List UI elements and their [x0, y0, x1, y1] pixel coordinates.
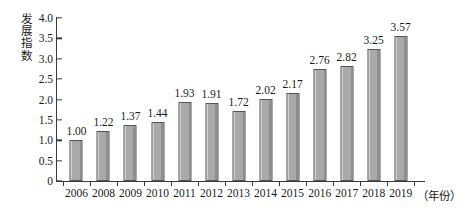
y-axis-tick-label: 2.5 [39, 73, 53, 85]
bar-item[interactable]: 3.252018 [367, 18, 380, 181]
x-axis-tick-label: 2012 [200, 187, 223, 199]
bar-rect[interactable] [151, 122, 164, 181]
y-axis-tick-mark [57, 180, 62, 181]
bar-item[interactable]: 1.722013 [232, 18, 245, 181]
bar-item[interactable]: 1.372009 [124, 18, 137, 181]
x-axis-tick-label: 2011 [173, 187, 196, 199]
bar-value-label: 1.00 [66, 125, 86, 137]
x-axis-tick-mark [414, 181, 415, 186]
bar-value-label: 2.02 [256, 84, 276, 96]
y-axis-tick-mark [57, 58, 62, 59]
y-axis-tick-label: 3.5 [39, 32, 53, 44]
x-axis-tick-mark [333, 181, 334, 186]
bar-item[interactable]: 1.912012 [205, 18, 218, 181]
bar-value-label: 2.82 [337, 51, 357, 63]
x-axis-tick-label: 2018 [362, 187, 385, 199]
bar-rect[interactable] [367, 49, 380, 181]
bar-item[interactable]: 3.572019 [394, 18, 407, 181]
bar-item[interactable]: 1.222008 [97, 18, 110, 181]
x-axis-tick-mark [306, 181, 307, 186]
bar-rect[interactable] [340, 66, 353, 181]
y-axis-tick-mark [57, 17, 62, 18]
bar-item[interactable]: 2.172015 [286, 18, 299, 181]
y-axis-tick-mark [57, 78, 62, 79]
bar-rect[interactable] [205, 103, 218, 181]
bar-value-label: 1.91 [201, 88, 221, 100]
bar-value-label: 2.17 [283, 78, 303, 90]
y-axis-tick-mark [57, 160, 62, 161]
x-axis-tick-mark [198, 181, 199, 186]
x-axis-tick-mark [279, 181, 280, 186]
y-axis-tick-mark [57, 99, 62, 100]
x-axis-tick-mark [90, 181, 91, 186]
y-axis-tick-label: 1.0 [39, 134, 53, 146]
x-axis-tick-label: 2016 [308, 187, 331, 199]
x-axis-unit-label: （年份） [417, 187, 461, 203]
bar-rect[interactable] [394, 36, 407, 181]
x-axis-tick-label: 2006 [65, 187, 88, 199]
x-axis-tick-label: 2013 [227, 187, 250, 199]
y-axis-tick-label: 3.0 [39, 53, 53, 65]
x-axis-tick-mark [360, 181, 361, 186]
x-axis-tick-mark [63, 181, 64, 186]
bar-item[interactable]: 2.762016 [313, 18, 326, 181]
bar-value-label: 3.57 [391, 21, 411, 33]
x-axis-tick-mark [144, 181, 145, 186]
bar-chart-figure: 发展指数 00.51.01.52.02.53.03.54.0 1.0020061… [0, 0, 465, 219]
bar-rect[interactable] [178, 102, 191, 181]
y-axis-tick-label: 1.5 [39, 114, 53, 126]
x-axis-tick-mark [171, 181, 172, 186]
bar-rect[interactable] [70, 140, 83, 181]
x-axis-tick-label: 2015 [281, 187, 304, 199]
y-axis-tick-mark [57, 140, 62, 141]
bar-rect[interactable] [232, 111, 245, 181]
bar-rect[interactable] [259, 99, 272, 181]
bar-item[interactable]: 1.932011 [178, 18, 191, 181]
y-axis-title: 发展指数 [19, 13, 34, 62]
x-axis-tick-label: 2017 [335, 187, 358, 199]
bar-value-label: 1.37 [120, 110, 140, 122]
bar-rect[interactable] [124, 125, 137, 181]
bar-rect[interactable] [286, 93, 299, 181]
y-axis-tick-label: 0 [47, 175, 53, 187]
y-axis-tick-label: 2.0 [39, 94, 53, 106]
bar-rect[interactable] [97, 131, 110, 181]
x-axis-tick-label: 2019 [389, 187, 412, 199]
x-axis-tick-label: 2008 [92, 187, 115, 199]
x-axis-tick-mark [387, 181, 388, 186]
y-axis-tick-label: 4.0 [39, 12, 53, 24]
x-axis-tick-mark [252, 181, 253, 186]
bar-value-label: 1.93 [174, 87, 194, 99]
x-axis-tick-label: 2014 [254, 187, 277, 199]
y-axis-tick-mark [57, 119, 62, 120]
bar-value-label: 2.76 [310, 54, 330, 66]
x-axis-tick-label: 2009 [119, 187, 142, 199]
plot-area: 00.51.01.52.02.53.03.54.0 1.0020061.2220… [57, 18, 425, 181]
bar-item[interactable]: 2.022014 [259, 18, 272, 181]
y-axis-tick-label: 0.5 [39, 155, 53, 167]
bar-rect[interactable] [313, 69, 326, 181]
y-axis-tick-mark [57, 38, 62, 39]
x-axis-tick-label: 2010 [146, 187, 169, 199]
bar-value-label: 3.25 [364, 34, 384, 46]
bar-value-label: 1.72 [229, 96, 249, 108]
x-axis-tick-mark [117, 181, 118, 186]
bar-item[interactable]: 1.002006 [70, 18, 83, 181]
x-axis-tick-mark [225, 181, 226, 186]
bar-item[interactable]: 1.442010 [151, 18, 164, 181]
bar-value-label: 1.22 [93, 116, 113, 128]
bar-value-label: 1.44 [147, 107, 167, 119]
bar-item[interactable]: 2.822017 [340, 18, 353, 181]
